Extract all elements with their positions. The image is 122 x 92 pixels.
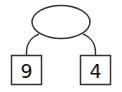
number-bond-diagram: 9 4 xyxy=(0,0,122,92)
part-value-right: 4 xyxy=(89,60,101,82)
left-connector-line xyxy=(26,34,39,55)
right-connector-line xyxy=(83,34,96,55)
part-value-left: 9 xyxy=(20,60,32,82)
whole-ellipse[interactable] xyxy=(32,6,90,39)
